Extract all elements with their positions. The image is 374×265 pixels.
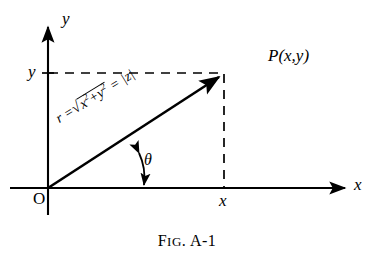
radius-vector — [48, 77, 219, 188]
coordinate-diagram — [0, 0, 374, 265]
y-coordinate-label: y — [28, 63, 36, 80]
figure-container: y x y x O P(x,y) θ r =√x2+y2 = |z| FIG. … — [0, 0, 374, 265]
caption-smallcaps: IG — [167, 234, 182, 249]
point-p-label: P(x,y) — [268, 47, 309, 64]
figure-caption: FIG. A-1 — [0, 232, 374, 250]
x-coordinate-label: x — [219, 192, 227, 209]
y-axis-label: y — [62, 10, 70, 27]
caption-suffix: . A-1 — [182, 232, 217, 249]
caption-prefix: F — [158, 232, 167, 249]
x-axis-label: x — [354, 176, 362, 193]
theta-label: θ — [144, 152, 152, 168]
origin-label: O — [33, 190, 45, 207]
